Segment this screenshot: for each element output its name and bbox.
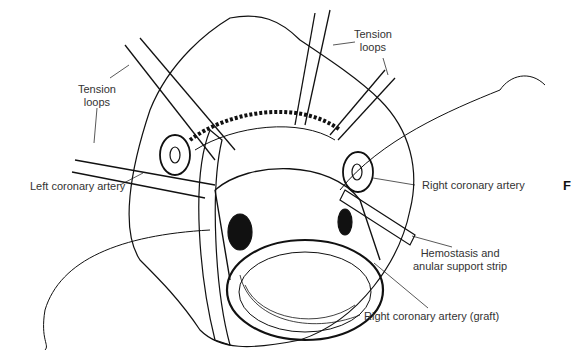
right-coronary-ostium xyxy=(338,209,352,235)
label-line: Tension xyxy=(354,28,392,41)
left-coronary-artery-label: Left coronary artery xyxy=(30,180,125,193)
left-coronary-button xyxy=(160,135,190,175)
right-coronary-artery-label: Right coronary artery xyxy=(422,179,525,192)
aortic-wall xyxy=(190,112,340,140)
left-strip xyxy=(199,130,230,345)
label-line: loops xyxy=(78,96,116,109)
label-line: loops xyxy=(354,41,392,54)
label-line: anular support strip xyxy=(413,260,507,273)
graft-tube-opening xyxy=(227,240,383,340)
tension-loops-left-label: Tension loops xyxy=(78,83,116,109)
left-coronary-ostium xyxy=(228,214,252,250)
panel-letter: F xyxy=(563,178,571,193)
right-coronary-button xyxy=(343,152,373,192)
tension-loops-top-label: Tension loops xyxy=(354,28,392,54)
hemostasis-strip-label: Hemostasis and anular support strip xyxy=(413,247,507,273)
label-line: Tension xyxy=(78,83,116,96)
suture-wire xyxy=(44,230,210,350)
right-coronary-artery-graft-label: Right coronary artery (graft) xyxy=(364,310,499,323)
label-line: Hemostasis and xyxy=(413,247,507,260)
